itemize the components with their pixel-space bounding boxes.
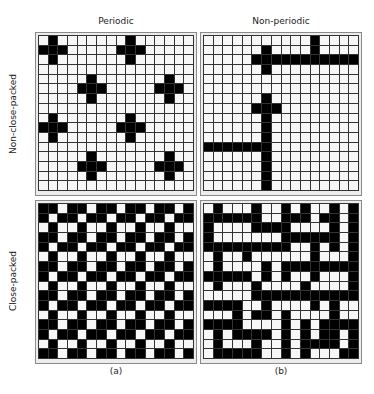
empty-site [282, 172, 291, 181]
empty-site [165, 243, 174, 252]
empty-site [340, 340, 349, 349]
empty-site [214, 181, 223, 190]
empty-site [49, 214, 58, 223]
empty-site [58, 181, 67, 190]
filled-site [78, 311, 87, 320]
empty-site [136, 65, 145, 74]
empty-site [252, 262, 261, 271]
empty-site [252, 162, 261, 171]
empty-site [117, 162, 126, 171]
empty-site [272, 172, 281, 181]
empty-site [320, 301, 329, 310]
empty-site [301, 301, 310, 310]
empty-site [272, 233, 281, 242]
filled-site [184, 330, 193, 339]
filled-site [78, 233, 87, 242]
filled-site [204, 243, 213, 252]
filled-site [39, 291, 48, 300]
column-header-nonperiodic: Non-periodic [200, 16, 362, 26]
empty-site [175, 223, 184, 232]
empty-site [301, 46, 310, 55]
filled-site [136, 233, 145, 242]
panel-periodic-close-packed [35, 200, 197, 364]
empty-site [78, 301, 87, 310]
filled-site [262, 223, 271, 232]
filled-site [320, 320, 329, 329]
filled-site [311, 252, 320, 261]
empty-site [58, 282, 67, 291]
empty-site [97, 123, 106, 132]
filled-site [301, 320, 310, 329]
empty-site [87, 204, 96, 213]
empty-site [243, 55, 252, 64]
empty-site [243, 223, 252, 232]
empty-site [204, 252, 213, 261]
empty-site [78, 46, 87, 55]
empty-site [340, 162, 349, 171]
empty-site [204, 311, 213, 320]
empty-site [301, 243, 310, 252]
empty-site [136, 172, 145, 181]
empty-site [87, 252, 96, 261]
empty-site [39, 84, 48, 93]
filled-site [252, 214, 261, 223]
empty-site [301, 75, 310, 84]
empty-site [39, 65, 48, 74]
filled-site [175, 243, 184, 252]
empty-site [252, 181, 261, 190]
filled-site [117, 243, 126, 252]
empty-site [184, 55, 193, 64]
filled-site [136, 311, 145, 320]
empty-site [320, 272, 329, 281]
filled-site [243, 252, 252, 261]
empty-site [204, 65, 213, 74]
empty-site [78, 94, 87, 103]
empty-site [291, 104, 300, 113]
filled-site [233, 320, 242, 329]
empty-site [330, 252, 339, 261]
empty-site [262, 204, 271, 213]
filled-site [97, 262, 106, 271]
filled-site [184, 214, 193, 223]
empty-site [214, 36, 223, 45]
filled-site [136, 223, 145, 232]
filled-site [330, 330, 339, 339]
empty-site [146, 223, 155, 232]
empty-site [301, 272, 310, 281]
filled-site [126, 46, 135, 55]
empty-site [49, 94, 58, 103]
empty-site [126, 143, 135, 152]
empty-site [78, 272, 87, 281]
empty-site [126, 223, 135, 232]
filled-site [214, 349, 223, 358]
empty-site [58, 320, 67, 329]
empty-site [262, 214, 271, 223]
empty-site [58, 291, 67, 300]
empty-site [175, 320, 184, 329]
empty-site [214, 223, 223, 232]
empty-site [214, 311, 223, 320]
empty-site [165, 104, 174, 113]
empty-site [97, 181, 106, 190]
empty-site [252, 123, 261, 132]
empty-site [146, 233, 155, 242]
empty-site [233, 291, 242, 300]
filled-site [107, 262, 116, 271]
empty-site [204, 94, 213, 103]
empty-site [39, 282, 48, 291]
empty-site [204, 84, 213, 93]
empty-site [272, 330, 281, 339]
empty-site [349, 133, 358, 142]
filled-site [349, 55, 358, 64]
empty-site [126, 282, 135, 291]
filled-site [136, 282, 145, 291]
empty-site [301, 84, 310, 93]
empty-site [223, 75, 232, 84]
empty-site [311, 320, 320, 329]
empty-site [340, 36, 349, 45]
filled-site [39, 46, 48, 55]
empty-site [204, 172, 213, 181]
filled-site [311, 291, 320, 300]
filled-site [301, 291, 310, 300]
filled-site [262, 114, 271, 123]
